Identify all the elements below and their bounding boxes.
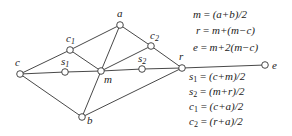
edge-c1-a bbox=[70, 25, 120, 50]
point-label-a: a bbox=[117, 7, 123, 19]
equation-s1: s1 = (c+m)/2 bbox=[189, 70, 246, 84]
edge-s2-r bbox=[142, 68, 182, 69]
point-e bbox=[262, 62, 269, 69]
edge-a-m bbox=[101, 25, 120, 71]
point-label-s1: s1 bbox=[61, 55, 69, 69]
point-c bbox=[17, 71, 24, 78]
point-s2 bbox=[139, 66, 146, 73]
equation-s2: s2 = (m+r)/2 bbox=[189, 85, 245, 99]
point-label-c: c bbox=[15, 56, 20, 68]
edge-r-e bbox=[182, 65, 265, 68]
point-c1 bbox=[67, 47, 74, 54]
edge-b-r bbox=[82, 68, 182, 117]
point-label-s2: s2 bbox=[138, 52, 146, 66]
edge-s1-m bbox=[65, 71, 101, 72]
edge-c2-r bbox=[151, 46, 182, 68]
edge-m-s2 bbox=[101, 69, 142, 71]
equation-r: r = m+(m−c) bbox=[196, 24, 255, 37]
edge-c-s1 bbox=[20, 72, 65, 74]
point-b bbox=[79, 114, 86, 121]
point-c2 bbox=[148, 43, 155, 50]
edge-a-c2 bbox=[120, 25, 151, 46]
point-label-r: r bbox=[179, 50, 184, 62]
point-label-b: b bbox=[87, 114, 93, 126]
edge-c-b bbox=[20, 74, 82, 117]
edge-c1-m bbox=[70, 50, 101, 71]
point-s1 bbox=[62, 69, 69, 76]
point-a bbox=[117, 22, 124, 29]
point-label-c2: c2 bbox=[150, 29, 159, 43]
construction-diagram: cabmrec1c2s1s2 m = (a+b)/2r = m+(m−c)e =… bbox=[0, 0, 292, 136]
equation-m: m = (a+b)/2 bbox=[193, 8, 247, 21]
point-r bbox=[179, 65, 186, 72]
equation-c1: c1 = (c+a)/2 bbox=[189, 100, 244, 114]
equation-c2: c2 = (r+a)/2 bbox=[189, 115, 243, 129]
point-label-c1: c1 bbox=[66, 32, 75, 46]
equation-e: e = m+2(m−c) bbox=[193, 41, 258, 54]
equation-list: m = (a+b)/2r = m+(m−c)e = m+2(m−c)s1 = (… bbox=[189, 8, 258, 129]
point-label-m: m bbox=[104, 73, 112, 85]
point-label-e: e bbox=[272, 59, 277, 71]
edge-m-b bbox=[82, 71, 101, 117]
